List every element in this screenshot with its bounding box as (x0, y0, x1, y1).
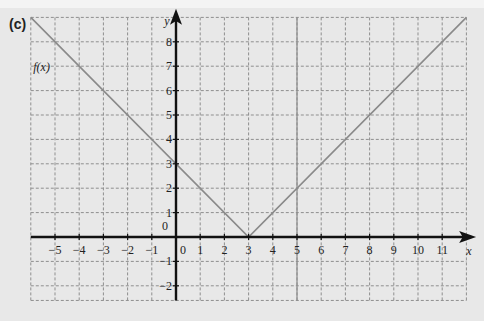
x-tick-label: 7 (342, 243, 348, 257)
x-tick-label: 11 (436, 243, 448, 257)
y-tick-label: 6 (166, 84, 172, 98)
y-tick-label: −1 (159, 254, 172, 268)
x-tick-label: 8 (367, 243, 373, 257)
x-tick-label: 0 (180, 243, 186, 257)
y-tick-label: 2 (166, 181, 172, 195)
y-tick-label: 7 (166, 59, 172, 73)
x-tick-label: 1 (197, 243, 203, 257)
x-tick-label: −3 (97, 243, 110, 257)
function-label: f(x) (33, 60, 50, 74)
function-graph: −5−4−3−2−101234567891011−2−1012345678xyf… (0, 0, 484, 321)
y-tick-label: 1 (166, 206, 172, 220)
y-tick-label: 3 (166, 157, 172, 171)
x-tick-label: 4 (270, 243, 276, 257)
x-axis-label: x (465, 244, 472, 258)
x-tick-label: 2 (221, 243, 227, 257)
x-tick-label: −2 (121, 243, 134, 257)
x-tick-label: −1 (145, 243, 158, 257)
x-tick-label: 3 (246, 243, 252, 257)
x-tick-label: 9 (391, 243, 397, 257)
y-tick-label: 5 (166, 108, 172, 122)
y-tick-label: 4 (166, 132, 172, 146)
y-tick-label: 8 (166, 35, 172, 49)
y-axis-label: y (163, 14, 170, 28)
x-tick-label: 5 (294, 243, 300, 257)
x-tick-label: −4 (73, 243, 86, 257)
x-tick-label: −5 (49, 243, 62, 257)
y-tick-label: −2 (159, 279, 172, 293)
x-tick-label: 10 (412, 243, 424, 257)
x-tick-label: 6 (318, 243, 324, 257)
y-tick-label: 0 (162, 219, 168, 233)
